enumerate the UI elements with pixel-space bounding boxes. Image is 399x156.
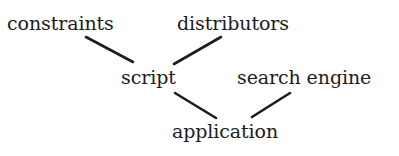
edge-script-application	[175, 93, 216, 118]
node-label-application: application	[172, 122, 278, 141]
node-label-distributors: distributors	[177, 14, 289, 33]
edge-distributors-script	[174, 37, 221, 64]
node-label-constraints: constraints	[7, 14, 114, 33]
node-label-search-engine: search engine	[237, 68, 371, 87]
diagram-canvas: constraints distributors script search e…	[0, 0, 399, 156]
edge-search-engine-application	[252, 93, 290, 117]
edge-constraints-script	[86, 37, 133, 62]
node-label-script: script	[121, 68, 176, 87]
